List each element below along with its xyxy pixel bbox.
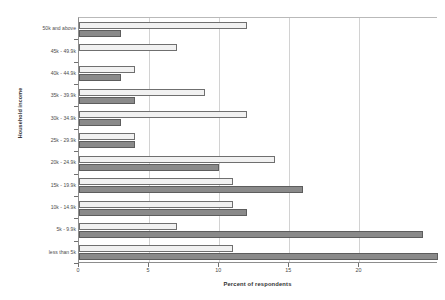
bar-group bbox=[79, 40, 437, 62]
x-axis-tick-label: 5 bbox=[136, 267, 160, 273]
bar-group bbox=[79, 219, 437, 241]
bar-light bbox=[79, 133, 135, 140]
y-axis-tick-label: 15k - 19.9k bbox=[18, 182, 76, 188]
y-axis-tick-label: 50k and above bbox=[18, 25, 76, 31]
bar-light bbox=[79, 156, 275, 163]
y-axis-tick-label: 35k - 39.9k bbox=[18, 92, 76, 98]
bar-dark bbox=[79, 30, 121, 37]
plot-area bbox=[78, 17, 437, 263]
bar-group bbox=[79, 85, 437, 107]
x-axis-tick-label: 15 bbox=[276, 267, 300, 273]
x-axis-title: Percent of respondents bbox=[78, 281, 437, 287]
bar-dark bbox=[79, 97, 135, 104]
bar-group bbox=[79, 242, 437, 264]
bar-group bbox=[79, 175, 437, 197]
bar-group bbox=[79, 63, 437, 85]
x-axis-tick-label: 20 bbox=[346, 267, 370, 273]
bar-dark bbox=[79, 186, 303, 193]
bar-light bbox=[79, 223, 177, 230]
y-axis-tick-label: 5k - 9.9k bbox=[18, 226, 76, 232]
bar-dark bbox=[79, 164, 219, 171]
bar-group bbox=[79, 197, 437, 219]
bar-group bbox=[79, 152, 437, 174]
bar-dark bbox=[79, 119, 121, 126]
bar-light bbox=[79, 66, 135, 73]
bar-dark bbox=[79, 231, 423, 238]
x-axis-tick-label: 10 bbox=[206, 267, 230, 273]
bar-dark bbox=[79, 74, 121, 81]
y-axis-tick-label: less than 5k bbox=[18, 249, 76, 255]
bar-light bbox=[79, 178, 233, 185]
bar-light bbox=[79, 111, 247, 118]
y-axis-tick-label: 40k - 44.9k bbox=[18, 70, 76, 76]
bar-group bbox=[79, 130, 437, 152]
bar-light bbox=[79, 245, 233, 252]
bar-light bbox=[79, 44, 177, 51]
bar-group bbox=[79, 18, 437, 40]
bar-light bbox=[79, 89, 205, 96]
bar-light bbox=[79, 22, 247, 29]
bar-chart: Household income 50k and above45k - 49.9… bbox=[0, 0, 445, 300]
x-axis-tick-label: 0 bbox=[66, 267, 90, 273]
x-axis-tick-labels: 05101520 bbox=[78, 267, 437, 277]
bar-group bbox=[79, 107, 437, 129]
y-axis-tick-labels: 50k and above45k - 49.9k40k - 44.9k35k -… bbox=[18, 17, 76, 263]
bar-light bbox=[79, 201, 233, 208]
bar-dark bbox=[79, 253, 438, 260]
y-axis-tick-label: 20k - 24.9k bbox=[18, 159, 76, 165]
y-axis-tick-label: 45k - 49.9k bbox=[18, 48, 76, 54]
bar-dark bbox=[79, 141, 135, 148]
y-axis-tick-label: 10k - 14.9k bbox=[18, 204, 76, 210]
y-axis-tick-label: 25k - 29.9k bbox=[18, 137, 76, 143]
y-axis-tick-label: 30k - 34.9k bbox=[18, 115, 76, 121]
bar-dark bbox=[79, 209, 247, 216]
